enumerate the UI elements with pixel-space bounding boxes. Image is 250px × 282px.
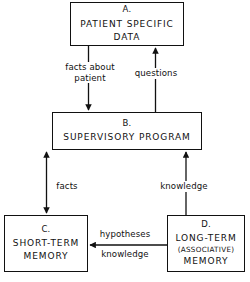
node-a-line1: PATIENT SPECIFIC — [80, 18, 174, 31]
node-b-letter: B. — [123, 118, 132, 128]
edge-label-facts-line1: facts — [52, 181, 82, 192]
edge-label-facts-about-patient-line2: patient — [62, 73, 118, 84]
edge-label-questions: questions — [131, 68, 181, 79]
node-d-long-term-memory[interactable]: D. LONG-TERM (ASSOCIATIVE) MEMORY — [167, 215, 245, 272]
edge-label-questions-line1: questions — [131, 68, 181, 79]
block-diagram: A. PATIENT SPECIFIC DATA B. SUPERVISORY … — [0, 0, 250, 282]
edge-label-facts: facts — [52, 181, 82, 192]
node-c-line2: MEMORY — [24, 250, 69, 263]
node-d-letter: D. — [201, 219, 211, 229]
node-a-line2: DATA — [114, 31, 141, 44]
edge-label-hypotheses-line1: hypotheses — [97, 229, 153, 240]
node-c-letter: C. — [41, 224, 50, 234]
edge-label-knowledge-up: knowledge — [156, 181, 212, 192]
edge-label-hypotheses: hypotheses — [97, 229, 153, 240]
node-c-line1: SHORT-TERM — [13, 237, 79, 250]
edge-label-knowledge-up-line1: knowledge — [156, 181, 212, 192]
node-d-line1: LONG-TERM — [175, 232, 236, 245]
node-a-letter: A. — [123, 4, 132, 14]
edge-label-knowledge-across: knowledge — [97, 249, 153, 260]
node-c-short-term-memory[interactable]: C. SHORT-TERM MEMORY — [4, 215, 88, 272]
edge-label-knowledge-across-line1: knowledge — [97, 249, 153, 260]
edge-label-facts-about-patient-line1: facts about — [62, 62, 118, 73]
node-a-patient-specific-data[interactable]: A. PATIENT SPECIFIC DATA — [70, 2, 184, 46]
node-d-line3: MEMORY — [184, 255, 229, 268]
node-b-line1: SUPERVISORY PROGRAM — [63, 131, 190, 144]
node-d-line2: (ASSOCIATIVE) — [178, 245, 235, 255]
edge-label-facts-about-patient: facts about patient — [62, 62, 118, 83]
node-b-supervisory-program[interactable]: B. SUPERVISORY PROGRAM — [52, 112, 202, 150]
